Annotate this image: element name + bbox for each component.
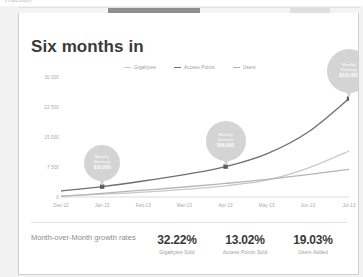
chart-plot-area: 07 50015 00022 50030 000 Dec-12Jan-13Feb… bbox=[31, 75, 349, 215]
x-axis-tick-label: Apr-13 bbox=[218, 203, 232, 208]
chart-card: Six months in GigabytesAccess PointsUser… bbox=[18, 13, 359, 275]
x-axis-tick-label: Jan-13 bbox=[95, 203, 110, 208]
x-axis-tick-label: Jun-13 bbox=[301, 203, 316, 208]
annotation-bubble-tail-icon bbox=[223, 159, 229, 166]
chart-legend: GigabytesAccess PointsUsers bbox=[124, 65, 256, 70]
annotation-bubble[interactable]: MonthlyRevenue$46,000 bbox=[206, 121, 246, 161]
annotation-bubble[interactable]: MonthlyRevenue$10,000 bbox=[84, 145, 120, 181]
clipped-page-text: Traction bbox=[0, 0, 363, 6]
annotation-amount: $10,000 bbox=[93, 165, 110, 171]
y-axis-tick-label: 22 500 bbox=[44, 105, 59, 110]
annotation-amount: $116,000 bbox=[339, 73, 359, 79]
stat-label: Gigabytes Sold bbox=[143, 249, 211, 255]
y-axis-tick-label: 0 bbox=[56, 195, 59, 200]
x-axis-labels: Dec-12Jan-13Feb-13Mar-13Apr-13May-13Jun-… bbox=[61, 203, 349, 215]
stat-list: 32.22%Gigabytes Sold13.02%Access Points … bbox=[143, 233, 347, 255]
stat-value: 19.03% bbox=[279, 233, 347, 247]
y-axis-tick-label: 15 000 bbox=[44, 135, 59, 140]
y-axis-labels: 07 50015 00022 50030 000 bbox=[31, 75, 61, 197]
x-axis-tick-label: Mar-13 bbox=[177, 203, 192, 208]
legend-item-access-points[interactable]: Access Points bbox=[174, 65, 215, 70]
stat-block: 13.02%Access Points Sold bbox=[211, 233, 279, 255]
legend-item-users[interactable]: Users bbox=[233, 65, 256, 70]
legend-label: Gigabytes bbox=[134, 65, 156, 70]
screenshot-root: Traction Six months in GigabytesAccess P… bbox=[0, 0, 363, 277]
stat-label: Access Points Sold bbox=[211, 249, 279, 255]
footer-divider bbox=[31, 222, 347, 223]
legend-swatch-icon bbox=[124, 67, 131, 68]
legend-label: Access Points bbox=[184, 65, 215, 70]
y-axis-tick-label: 7 500 bbox=[47, 165, 59, 170]
page-title: Six months in bbox=[31, 37, 144, 57]
annotation-bubble-tail-icon bbox=[99, 179, 105, 186]
stat-value: 32.22% bbox=[143, 233, 211, 247]
x-axis-tick-label: Jul-13 bbox=[342, 203, 355, 208]
clipped-text-label: Traction bbox=[4, 0, 31, 3]
x-axis-tick-label: Feb-13 bbox=[136, 203, 151, 208]
legend-swatch-icon bbox=[233, 67, 240, 68]
stat-label: Users Added bbox=[279, 249, 347, 255]
legend-swatch-icon bbox=[174, 67, 181, 68]
annotation-amount: $46,000 bbox=[217, 143, 234, 149]
legend-label: Users bbox=[243, 65, 256, 70]
stat-block: 32.22%Gigabytes Sold bbox=[143, 233, 211, 255]
annotation-bubble-tail-icon bbox=[346, 91, 352, 98]
stat-block: 19.03%Users Added bbox=[279, 233, 347, 255]
y-axis-tick-label: 30 000 bbox=[44, 75, 59, 80]
footer-stats: Month-over-Month growth rates 32.22%Giga… bbox=[31, 233, 347, 255]
stat-value: 13.02% bbox=[211, 233, 279, 247]
x-axis-tick-label: May-13 bbox=[259, 203, 275, 208]
x-axis-tick-label: Dec-12 bbox=[53, 203, 68, 208]
growth-rate-caption: Month-over-Month growth rates bbox=[31, 233, 143, 244]
legend-item-gigabytes[interactable]: Gigabytes bbox=[124, 65, 156, 70]
